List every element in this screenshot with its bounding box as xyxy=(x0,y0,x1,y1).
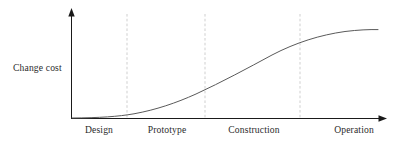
y-axis-arrowhead-icon xyxy=(68,8,74,17)
x-tick-label-prototype: Prototype xyxy=(148,125,187,135)
x-tick-label-design: Design xyxy=(85,125,113,135)
x-tick-label-operation: Operation xyxy=(334,125,374,135)
axis-group xyxy=(68,8,387,122)
y-axis-label: Change cost xyxy=(13,63,62,73)
gridline-group xyxy=(127,14,300,118)
x-axis-arrowhead-icon xyxy=(379,115,388,121)
change-cost-chart-figure: Change cost Design Prototype Constructio… xyxy=(0,0,398,145)
x-tick-label-construction: Construction xyxy=(228,125,279,135)
change-cost-curve xyxy=(72,30,378,118)
